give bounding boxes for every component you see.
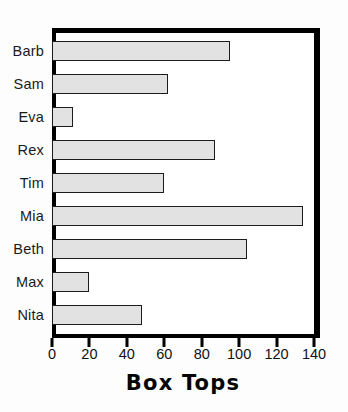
bar-row <box>52 68 314 101</box>
x-tick-label-80: 80 <box>194 346 210 362</box>
bar-row <box>52 265 314 298</box>
x-axis-title: Box Tops <box>52 371 314 395</box>
x-tick-label-20: 20 <box>81 346 97 362</box>
bar-row <box>52 35 314 68</box>
x-axis-tick-labels: 020406080100120140 <box>52 346 314 366</box>
bar-row <box>52 101 314 134</box>
bar-eva <box>52 107 73 127</box>
bar-barb <box>52 41 230 61</box>
category-label-mia: Mia <box>0 200 48 233</box>
category-label-barb: Barb <box>0 34 48 67</box>
category-axis-labels: Barb Sam Eva Rex Tim Mia Beth Max Nita <box>0 34 48 332</box>
bar-row <box>52 232 314 265</box>
x-tick-label-60: 60 <box>156 346 172 362</box>
category-label-sam: Sam <box>0 67 48 100</box>
bar-tim <box>52 173 164 193</box>
category-label-beth: Beth <box>0 233 48 266</box>
bar-max <box>52 272 89 292</box>
bar-rex <box>52 140 215 160</box>
bar-row <box>52 167 314 200</box>
category-label-max: Max <box>0 266 48 299</box>
bar-row <box>52 199 314 232</box>
x-tick-label-40: 40 <box>119 346 135 362</box>
category-label-tim: Tim <box>0 166 48 199</box>
x-tick-label-120: 120 <box>264 346 288 362</box>
bar-chart: Barb Sam Eva Rex Tim Mia Beth Max Nita 0… <box>0 0 348 412</box>
bar-sam <box>52 74 168 94</box>
bar-row <box>52 298 314 331</box>
x-tick-label-100: 100 <box>227 346 251 362</box>
bar-nita <box>52 305 142 325</box>
category-label-rex: Rex <box>0 133 48 166</box>
category-label-nita: Nita <box>0 299 48 332</box>
category-label-eva: Eva <box>0 100 48 133</box>
bars-container <box>52 33 314 333</box>
x-tick-label-140: 140 <box>302 346 326 362</box>
x-tick-label-0: 0 <box>48 346 56 362</box>
bar-row <box>52 134 314 167</box>
bar-mia <box>52 206 303 226</box>
bar-beth <box>52 239 247 259</box>
